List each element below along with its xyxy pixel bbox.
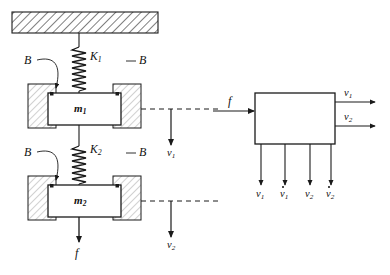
label-block-signal-v1-dot: v1 [280,189,288,201]
label-mass-m2: m2 [74,195,86,208]
label-block-signal-v1: v1 [256,189,264,201]
mass-m1 [48,93,121,140]
label-block-signal-v2: v2 [305,189,313,201]
diagram-canvas [0,0,390,275]
label-spring-k1: K1 [90,51,102,64]
label-damper-upper-left: B [24,54,31,66]
label-damper-lower-right: B [139,146,146,158]
label-damper-upper-right: B [139,54,146,66]
label-damper-lower-left: B [24,146,31,158]
label-block-output-v2: v2 [344,112,352,124]
block-diagram-box [255,93,335,144]
label-mass-m1: m1 [74,103,86,116]
label-spring-k2: K2 [90,144,102,157]
label-velocity-v2-mechanical: v2 [167,240,175,252]
reference-line-v1 [141,109,220,145]
reference-line-v2 [141,201,220,237]
label-force-f-mechanical: f [75,247,78,259]
label-block-signal-v2-dot: v2 [326,189,334,201]
label-block-output-v1: v1 [344,88,352,100]
label-velocity-v1-mechanical: v1 [167,148,175,160]
figure-root: K1 K2 B B B B m1 m2 f v1 v2 f v1 v2 v1 v… [0,0,390,275]
label-block-input-f: f [228,95,231,107]
ceiling-support [12,12,158,33]
